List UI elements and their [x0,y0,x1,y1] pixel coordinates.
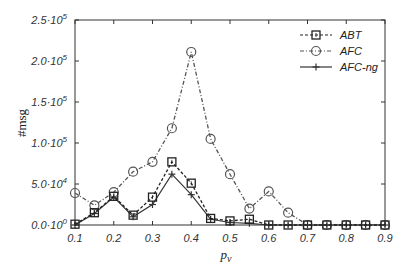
series-line [75,162,385,225]
x-axis-label-sub: v [227,253,232,264]
x-tick-label: 0.2 [106,232,121,244]
y-tick-label: 1.0·105 [31,135,67,149]
plot-frame [75,20,385,225]
y-tick-label: 5.0·104 [31,176,67,190]
legend-label: ABT [339,29,363,41]
x-tick-label: 0.4 [184,232,199,244]
legend-label: AFC [339,45,362,57]
y-tick-label: 0.0·100 [31,217,67,231]
legend: ABTAFCAFC-ng [300,29,379,73]
x-axis-label: pv [220,247,233,264]
series-line [75,52,385,225]
x-tick-label: 0.5 [222,232,238,244]
x-tick-label: 0.1 [67,232,82,244]
series-layer [71,47,390,229]
legend-item-afc-ng: AFC-ng [300,61,379,73]
legend-label: AFC-ng [339,61,379,73]
x-tick-label: 0.7 [300,232,316,244]
series-abt [71,158,389,229]
y-tick-label: 1.5·105 [31,94,67,108]
y-axis-label: #msg [14,108,29,137]
x-tick-label: 0.8 [339,232,355,244]
legend-item-afc: AFC [300,45,362,57]
x-tick-label: 0.6 [261,232,277,244]
circle-marker [284,208,293,217]
circle-marker [206,134,215,143]
circle-marker [245,204,254,213]
y-tick-label: 2.0·105 [30,53,67,67]
y-tick-label: 2.5·105 [30,12,67,26]
x-tick-label: 0.9 [377,232,392,244]
line-chart: 0.10.20.30.40.50.60.70.80.9 0.0·1005.0·1… [0,0,407,274]
x-tick-label: 0.3 [145,232,161,244]
legend-item-abt: ABT [300,29,363,41]
